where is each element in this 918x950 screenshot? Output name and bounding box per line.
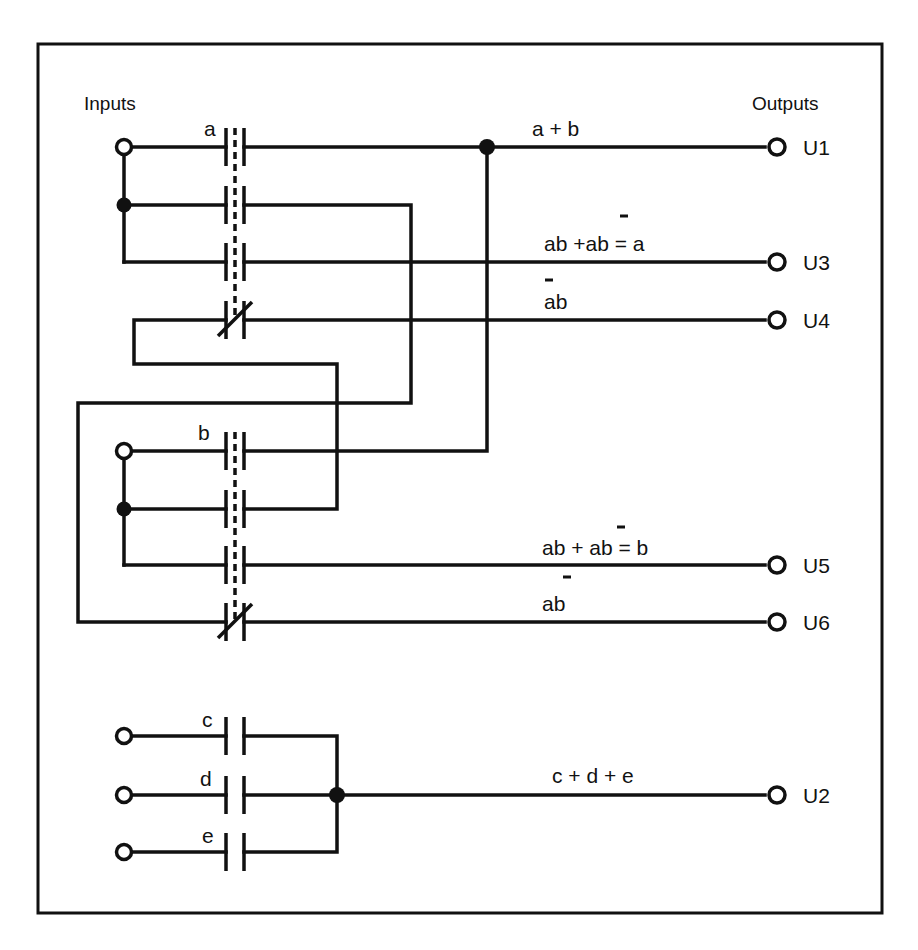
- outputs-heading: Outputs: [752, 93, 819, 114]
- junction-dot-a: [117, 198, 132, 213]
- input-terminal-e[interactable]: [117, 845, 132, 860]
- output-label-u5: U5: [803, 554, 830, 577]
- output-terminal-u1[interactable]: [769, 139, 785, 155]
- output-terminal-u3[interactable]: [769, 254, 785, 270]
- section-cde: c d e: [117, 708, 766, 871]
- junction-dot-cde: [329, 787, 345, 803]
- input-terminal-b[interactable]: [117, 444, 132, 459]
- junction-dot-b: [117, 502, 132, 517]
- output-label-u2: U2: [803, 784, 830, 807]
- contact-label-e: e: [202, 824, 214, 847]
- output-label-u3: U3: [803, 251, 830, 274]
- input-terminal-a[interactable]: [117, 140, 132, 155]
- contact-label-d: d: [200, 767, 212, 790]
- output-terminal-u6[interactable]: [769, 614, 785, 630]
- output-label-u6: U6: [803, 611, 830, 634]
- contact-e: [226, 833, 244, 871]
- section-a: a: [78, 117, 765, 622]
- expression-u1: a + b: [532, 117, 579, 140]
- contact-label-a: a: [204, 117, 216, 140]
- expression-u4: ab: [544, 290, 567, 313]
- section-b: b: [117, 421, 766, 641]
- expression-u2: c + d + e: [552, 764, 634, 787]
- logic-contact-circuit-diagram: Inputs Outputs: [0, 0, 918, 950]
- output-expressions: a + b ab +ab = a ab ab + ab = b ab c + d…: [532, 117, 648, 787]
- output-terminal-u4[interactable]: [769, 312, 785, 328]
- contact-d: [226, 776, 244, 814]
- inputs-heading: Inputs: [84, 93, 136, 114]
- output-label-u4: U4: [803, 309, 830, 332]
- output-terminals: U1 U3 U4 U5 U6 U2: [769, 136, 830, 807]
- output-label-u1: U1: [803, 136, 830, 159]
- input-terminal-c[interactable]: [117, 729, 132, 744]
- output-terminal-u5[interactable]: [769, 557, 785, 573]
- wire-b1-to-u1: [244, 147, 487, 451]
- expression-u3: ab +ab = a: [544, 232, 645, 255]
- contact-c: [226, 717, 244, 755]
- contact-label-b: b: [198, 421, 210, 444]
- output-terminal-u2[interactable]: [769, 787, 785, 803]
- expression-u6: ab: [542, 592, 565, 615]
- junction-dot-u1: [479, 139, 495, 155]
- input-terminal-d[interactable]: [117, 788, 132, 803]
- contact-label-c: c: [202, 708, 213, 731]
- diagram-frame: [38, 44, 882, 913]
- expression-u5: ab + ab = b: [542, 536, 648, 559]
